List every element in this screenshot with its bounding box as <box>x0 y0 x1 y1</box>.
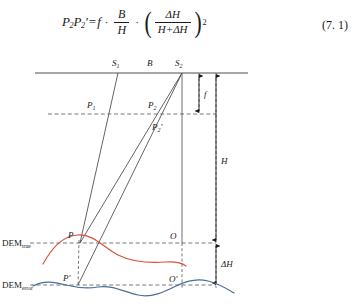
fraction-numerator-delta-h: ΔH <box>162 9 182 22</box>
fraction-numerator-b: B <box>115 8 128 22</box>
label-p: P <box>67 230 74 240</box>
equation-block: P2P2′=f· B H · ( ΔH H+ΔH ) 2 (7. 1) <box>0 0 358 52</box>
label-p2-prime: P2′ <box>151 122 164 133</box>
ray-s1-to-p <box>80 73 118 243</box>
equation-f: f <box>97 14 101 30</box>
right-paren: ) <box>194 10 201 33</box>
equation-exponent: 2 <box>203 18 207 27</box>
equation-equals: = <box>89 14 96 30</box>
equation-fraction-dh-over-hdh: ΔH H+ΔH <box>155 9 191 35</box>
label-p-prime: P′ <box>62 273 72 283</box>
label-o-prime: O′ <box>169 274 179 284</box>
fraction-denominator-h-plus-delta-h: H+ΔH <box>155 22 191 36</box>
vertical-dashed-p-to-p-prime <box>78 240 79 287</box>
equation-lhs-p2-prime: P2′ <box>73 14 87 31</box>
left-paren: ( <box>144 10 151 33</box>
label-p1: P1 <box>86 100 96 111</box>
equation-parenthesized-term: ( ΔH H+ΔH ) 2 <box>143 9 207 35</box>
label-baseline-b: B <box>147 58 153 68</box>
label-delta-height: ΔH <box>220 259 233 269</box>
equation-dot-1: · <box>105 16 109 28</box>
label-o: O <box>170 231 177 241</box>
fraction-denominator-h: H <box>114 22 129 37</box>
equation-number: (7. 1) <box>322 18 348 33</box>
equation-fraction-b-over-h: B H <box>114 8 129 36</box>
diagram-geometry: S1 B S2 P1 P2 P2′ f H ΔH O O′ P P′ DEMtr… <box>0 52 358 307</box>
equation-lhs-p2: P2 <box>62 14 73 31</box>
label-dem-true: DEMtrue <box>2 238 31 249</box>
ray-s2-to-p <box>80 73 182 243</box>
dem-true-curve <box>43 235 186 266</box>
label-p2: P2 <box>147 100 157 111</box>
label-s2: S2 <box>175 58 183 69</box>
label-height-h: H <box>220 156 228 166</box>
equation-dot-2: · <box>135 16 139 28</box>
equation-expression: P2P2′=f· B H · ( ΔH H+ΔH ) 2 <box>62 8 207 36</box>
label-s1: S1 <box>112 58 120 69</box>
label-focal-f: f <box>204 89 208 99</box>
label-dem-error: DEMerror <box>2 280 33 291</box>
